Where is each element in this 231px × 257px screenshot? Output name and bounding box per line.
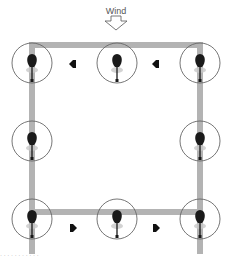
arrow-right-icon — [70, 224, 77, 232]
diagram-canvas: Wind · · · · · · · · · · · — [0, 0, 231, 257]
flow-arrow-group — [69, 60, 160, 232]
wind-label: Wind — [100, 6, 132, 16]
wind-arrow-icon — [105, 16, 127, 30]
rotor-array-diagram — [0, 0, 231, 257]
arrow-left-icon — [152, 60, 159, 68]
rotor-top-center — [97, 43, 137, 83]
rotor-bottom-center — [97, 199, 137, 239]
arrow-left-icon — [69, 60, 76, 68]
arrow-right-icon — [153, 224, 160, 232]
caption-text: · · · · · · · · · · · — [0, 252, 39, 257]
